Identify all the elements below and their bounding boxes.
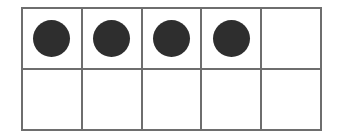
- ten-frame-cell-r2c4[interactable]: [202, 70, 262, 131]
- ten-frame-cell-r1c3[interactable]: [143, 9, 203, 70]
- ten-frame-cell-r1c5[interactable]: [262, 9, 322, 70]
- ten-frame-cell-r1c1[interactable]: [23, 9, 83, 70]
- ten-frame-cell-r2c2[interactable]: [83, 70, 143, 131]
- ten-frame-cell-r2c5[interactable]: [262, 70, 322, 131]
- counter-dot[interactable]: [93, 20, 130, 57]
- counter-dot[interactable]: [153, 20, 190, 57]
- ten-frame-grid: [21, 7, 322, 131]
- ten-frame-cell-r1c2[interactable]: [83, 9, 143, 70]
- counter-dot[interactable]: [33, 20, 70, 57]
- counter-dot[interactable]: [213, 20, 250, 57]
- ten-frame-cell-r1c4[interactable]: [202, 9, 262, 70]
- ten-frame-cell-r2c1[interactable]: [23, 70, 83, 131]
- ten-frame-figure: [0, 0, 342, 139]
- ten-frame-cell-r2c3[interactable]: [143, 70, 203, 131]
